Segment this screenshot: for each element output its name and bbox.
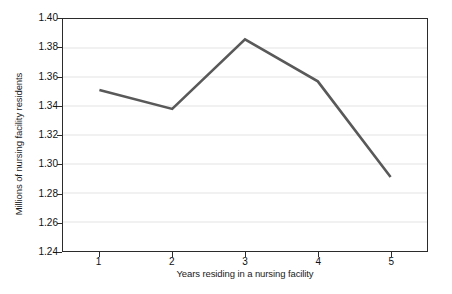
y-tick-label: 1.32 [24,130,58,140]
y-tick-label: 1.28 [24,189,58,199]
x-tick-label: 3 [233,256,257,268]
data-line-series [63,19,427,251]
x-tick-label: 2 [160,256,184,268]
line-chart-figure: Millions of nursing facility residents 1… [0,0,452,294]
x-tick-label: 5 [379,256,403,268]
y-tick-label: 1.38 [24,42,58,52]
x-axis-title: Years residing in a nursing facility [62,268,428,279]
x-tick-label: 4 [306,256,330,268]
series-line [99,39,390,177]
y-axis-tick-labels: 1.401.381.361.341.321.301.281.261.24 [20,18,58,252]
plot-area [62,18,428,252]
y-tick-label: 1.40 [24,13,58,23]
x-tick-label: 1 [87,256,111,268]
y-tick-label: 1.34 [24,101,58,111]
y-tick-label: 1.30 [24,159,58,169]
y-tick-label: 1.24 [24,247,58,257]
y-tick-label: 1.26 [24,218,58,228]
y-tick-label: 1.36 [24,72,58,82]
